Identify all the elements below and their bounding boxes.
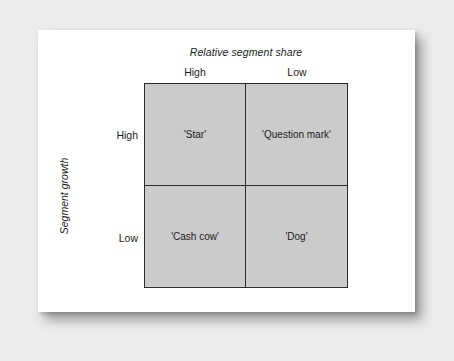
quadrant-cash-cow: 'Cash cow' — [145, 186, 246, 288]
bcg-matrix-figure: Relative segment share High Low Segment … — [38, 30, 415, 312]
quadrant-dog-label: 'Dog' — [285, 231, 307, 242]
row-header-high: High — [100, 129, 138, 141]
figure-card: Relative segment share High Low Segment … — [38, 30, 415, 312]
quadrant-cash-cow-label: 'Cash cow' — [171, 231, 219, 242]
column-header-low: Low — [246, 66, 348, 78]
matrix-grid: 'Star' 'Question mark' 'Cash cow' 'Dog' — [144, 83, 348, 288]
quadrant-star: 'Star' — [145, 84, 246, 186]
quadrant-question-mark-label: 'Question mark' — [262, 129, 331, 140]
y-axis-title: Segment growth — [58, 121, 70, 271]
row-header-low: Low — [100, 232, 138, 244]
quadrant-question-mark: 'Question mark' — [246, 84, 347, 186]
quadrant-dog: 'Dog' — [246, 186, 347, 288]
x-axis-title: Relative segment share — [144, 46, 348, 58]
quadrant-star-label: 'Star' — [184, 129, 206, 140]
column-header-high: High — [144, 66, 246, 78]
